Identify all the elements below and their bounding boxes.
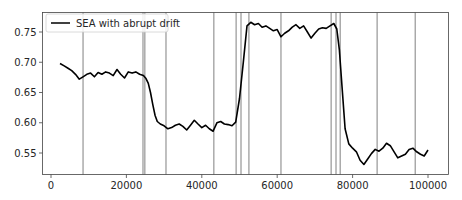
y-tick-label: 0.55	[14, 148, 36, 159]
x-tick-label: 80000	[337, 180, 369, 191]
drift-marker-lines	[83, 13, 415, 175]
legend-label: SEA with abrupt drift	[76, 18, 180, 29]
legend: SEA with abrupt drift	[46, 14, 180, 32]
x-tick-label: 0	[48, 180, 54, 191]
y-axis: 0.550.600.650.700.75	[14, 27, 42, 159]
series-line	[60, 22, 428, 164]
line-chart: 020000400006000080000100000 0.550.600.65…	[0, 0, 462, 200]
x-tick-label: 20000	[110, 180, 142, 191]
y-tick-label: 0.65	[14, 87, 36, 98]
data-series	[60, 22, 428, 164]
y-tick-label: 0.70	[14, 57, 36, 68]
y-tick-label: 0.60	[14, 117, 36, 128]
x-tick-label: 40000	[186, 180, 218, 191]
x-tick-label: 60000	[261, 180, 293, 191]
x-axis: 020000400006000080000100000	[48, 175, 447, 191]
x-tick-label: 100000	[409, 180, 447, 191]
y-tick-label: 0.75	[14, 27, 36, 38]
